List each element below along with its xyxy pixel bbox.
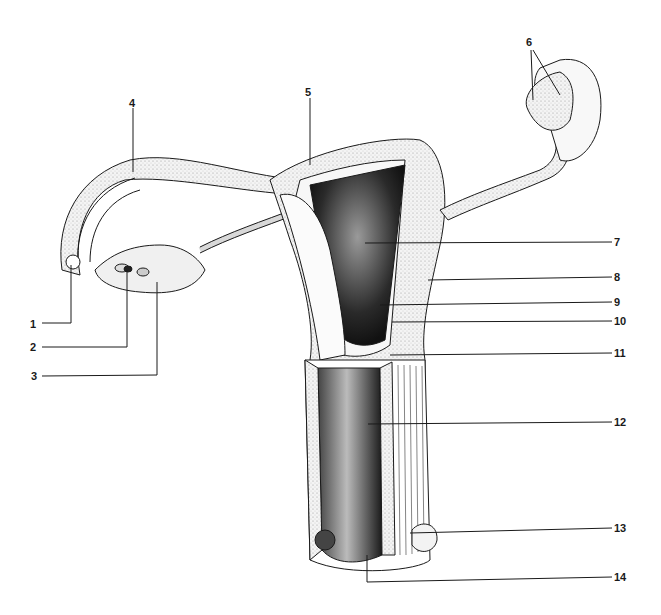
label-2: 2 <box>30 341 36 353</box>
diagram-drawing <box>0 0 661 615</box>
label-1: 1 <box>30 318 36 330</box>
anatomy-diagram: 1 2 3 4 5 6 7 8 9 10 11 12 13 14 <box>0 0 661 615</box>
label-5: 5 <box>305 86 311 98</box>
label-8: 8 <box>614 271 620 283</box>
vagina <box>305 360 437 571</box>
label-7: 7 <box>614 236 620 248</box>
label-10: 10 <box>614 315 626 327</box>
label-9: 9 <box>614 296 620 308</box>
label-11: 11 <box>614 347 626 359</box>
left-adnexa <box>61 158 300 293</box>
right-adnexa <box>440 59 601 220</box>
label-12: 12 <box>614 416 626 428</box>
label-6: 6 <box>526 36 532 48</box>
label-13: 13 <box>614 522 626 534</box>
label-4: 4 <box>129 97 135 109</box>
label-3: 3 <box>31 370 37 382</box>
uterus <box>270 139 445 380</box>
label-14: 14 <box>614 571 626 583</box>
